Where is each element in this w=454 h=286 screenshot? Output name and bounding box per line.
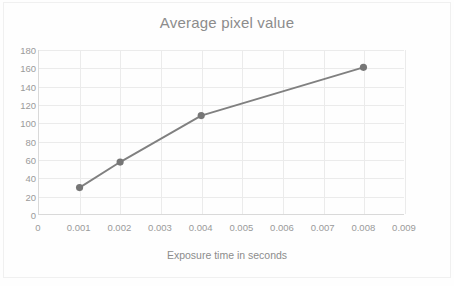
y-axis-tick-label: 160 (6, 63, 36, 74)
y-axis-tick-label: 20 (6, 191, 36, 202)
data-point-marker (360, 64, 367, 71)
y-axis-tick-label: 120 (6, 100, 36, 111)
x-axis-tick-label: 0.004 (189, 222, 213, 233)
y-axis-tick-label: 100 (6, 118, 36, 129)
x-axis-title: Exposure time in seconds (0, 249, 454, 261)
chart-title: Average pixel value (0, 14, 454, 31)
x-axis-tick-label: 0.005 (229, 222, 253, 233)
gridline-vertical (405, 50, 406, 214)
data-point-marker (117, 158, 124, 165)
series-line (80, 67, 364, 187)
y-axis-tick-label: 180 (6, 45, 36, 56)
x-axis-tick-label: 0.008 (351, 222, 375, 233)
data-point-marker (76, 184, 83, 191)
chart-container: Average pixel value 02040608010012014016… (0, 0, 454, 286)
plot-area (38, 50, 404, 215)
series-line-chart (39, 50, 404, 214)
x-axis-tick-label: 0.003 (148, 222, 172, 233)
y-axis-tick-label: 0 (6, 210, 36, 221)
x-axis-tick-label: 0.009 (392, 222, 416, 233)
data-point-marker (198, 112, 205, 119)
x-axis-tick-label: 0.002 (107, 222, 131, 233)
y-axis-tick-label: 80 (6, 136, 36, 147)
x-axis-tick-label: 0 (35, 222, 40, 233)
x-axis-tick-label: 0.006 (270, 222, 294, 233)
y-axis-tick-label: 40 (6, 173, 36, 184)
y-axis-tick-label: 140 (6, 81, 36, 92)
y-axis-tick-label: 60 (6, 155, 36, 166)
x-axis-tick-label: 0.007 (311, 222, 335, 233)
x-axis-tick-label: 0.001 (67, 222, 91, 233)
